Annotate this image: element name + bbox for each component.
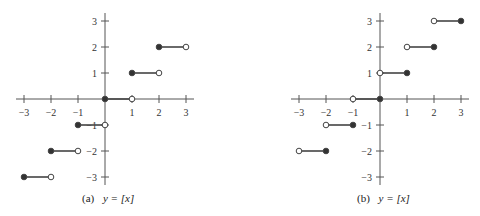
step-segment xyxy=(21,174,54,180)
y-tick-label: −3 xyxy=(86,172,97,183)
y-tick-label: 1 xyxy=(367,68,372,79)
x-tick-label: −2 xyxy=(46,107,57,118)
open-endpoint-circle xyxy=(129,96,135,102)
x-tick-label: −3 xyxy=(294,107,305,118)
figure-canvas: −3−2−1123−3−2−1123 −3−2−1123−3−2−1123 (a… xyxy=(0,0,480,216)
y-tick-label: −2 xyxy=(361,146,372,157)
open-endpoint-circle xyxy=(102,122,108,128)
step-segment xyxy=(377,70,410,76)
closed-endpoint-dot xyxy=(458,18,464,24)
open-endpoint-circle xyxy=(48,174,54,180)
closed-endpoint-dot xyxy=(48,148,54,154)
plot-b-ceiling-like-function: −3−2−1123−3−2−1123 xyxy=(291,13,469,185)
closed-endpoint-dot xyxy=(156,44,162,50)
y-tick-label: 2 xyxy=(367,42,372,53)
closed-endpoint-dot xyxy=(21,174,27,180)
caption-a: (a) y = [x] xyxy=(82,192,134,205)
closed-endpoint-dot xyxy=(75,122,81,128)
closed-endpoint-dot xyxy=(323,148,329,154)
open-endpoint-circle xyxy=(156,70,162,76)
closed-endpoint-dot xyxy=(377,96,383,102)
x-tick-label: 2 xyxy=(432,107,437,118)
x-tick-label: 3 xyxy=(184,107,189,118)
open-endpoint-circle xyxy=(75,148,81,154)
x-tick-label: −1 xyxy=(348,107,359,118)
x-tick-label: 3 xyxy=(459,107,464,118)
step-segment xyxy=(431,18,464,24)
closed-endpoint-dot xyxy=(404,70,410,76)
y-tick-label: 1 xyxy=(92,68,97,79)
step-segment xyxy=(48,148,81,154)
caption-b-label: (b) xyxy=(357,192,370,205)
caption-b-equation: y = [x] xyxy=(378,192,410,204)
caption-b: (b) y = [x] xyxy=(357,192,410,205)
step-segment xyxy=(129,70,162,76)
open-endpoint-circle xyxy=(296,148,302,154)
closed-endpoint-dot xyxy=(350,122,356,128)
x-tick-label: −1 xyxy=(73,107,84,118)
step-segment xyxy=(156,44,189,50)
step-segment xyxy=(323,122,356,128)
open-endpoint-circle xyxy=(377,70,383,76)
y-tick-label: 3 xyxy=(92,16,97,27)
x-tick-label: 2 xyxy=(157,107,162,118)
y-tick-label: 3 xyxy=(367,16,372,27)
plot-a-floor-function: −3−2−1123−3−2−1123 xyxy=(16,13,194,185)
open-endpoint-circle xyxy=(323,122,329,128)
step-segment xyxy=(296,148,329,154)
x-tick-label: 1 xyxy=(130,107,135,118)
step-segment xyxy=(404,44,437,50)
open-endpoint-circle xyxy=(183,44,189,50)
x-tick-label: 1 xyxy=(405,107,410,118)
step-segment xyxy=(350,96,383,102)
x-tick-label: −2 xyxy=(321,107,332,118)
y-tick-label: −2 xyxy=(86,146,97,157)
step-segment xyxy=(102,96,135,102)
open-endpoint-circle xyxy=(431,18,437,24)
x-tick-label: −3 xyxy=(19,107,30,118)
y-tick-label: −1 xyxy=(361,120,372,131)
open-endpoint-circle xyxy=(404,44,410,50)
y-tick-label: −3 xyxy=(361,172,372,183)
caption-a-label: (a) xyxy=(82,192,95,205)
closed-endpoint-dot xyxy=(129,70,135,76)
caption-a-equation: y = [x] xyxy=(102,192,134,204)
open-endpoint-circle xyxy=(350,96,356,102)
closed-endpoint-dot xyxy=(431,44,437,50)
closed-endpoint-dot xyxy=(102,96,108,102)
y-tick-label: 2 xyxy=(92,42,97,53)
